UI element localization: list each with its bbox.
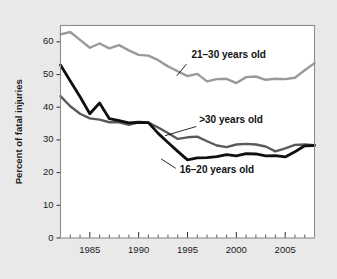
x-tick-label-1990: 1990 [128,244,149,255]
fatal-injuries-line-chart: 0102030405060 19851990199520002005 21–30… [0,0,337,279]
y-tick-label-0: 0 [48,232,53,243]
y-tick-label-10: 10 [43,199,54,210]
plot-area-background [61,26,315,239]
series-label-16-20-years-old: 16–20 years old [180,164,255,175]
y-axis-title: Percent of fatal injuries [13,79,24,184]
y-tick-label-40: 40 [43,101,54,112]
x-tick-label-1985: 1985 [79,244,100,255]
x-tick-label-2005: 2005 [275,244,296,255]
series-label-21-30-years-old: 21–30 years old [191,49,266,60]
y-tick-label-50: 50 [43,68,54,79]
y-tick-label-20: 20 [43,166,54,177]
y-tick-label-60: 60 [43,35,54,46]
y-tick-label-30: 30 [43,133,54,144]
x-tick-label-2000: 2000 [226,244,247,255]
figure-container: 0102030405060 19851990199520002005 21–30… [0,0,337,279]
x-tick-label-1995: 1995 [177,244,198,255]
series-label-30-years-old: >30 years old [199,114,263,125]
